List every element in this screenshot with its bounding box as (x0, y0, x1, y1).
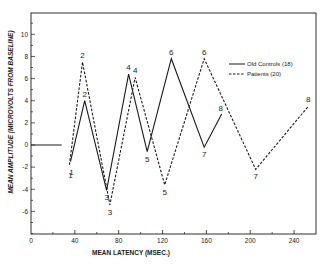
x-tick-label: 120 (157, 237, 168, 244)
y-tick-label: -4 (22, 186, 28, 193)
point-label: 7 (202, 150, 207, 159)
y-axis-ticks: -6-4-20246810 (21, 23, 35, 233)
plot-frame (31, 13, 316, 234)
erp-latency-amplitude-chart: 04080120160200240 -6-4-20246810 12345678… (0, 0, 331, 269)
y-axis-title: MEAN AMPLITUDE (MICROVOLTS FROM BASELINE… (7, 30, 15, 193)
point-label: 1 (68, 171, 73, 180)
point-label: 8 (219, 104, 224, 113)
y-tick-label: 10 (21, 31, 29, 38)
legend: Old Controls (18) Patients (20) (229, 61, 293, 77)
y-tick-label: 8 (24, 53, 28, 60)
point-label: 4 (133, 66, 138, 75)
y-tick-label: -6 (22, 208, 28, 215)
x-tick-label: 80 (115, 237, 123, 244)
x-tick-label: 40 (71, 237, 79, 244)
point-label: 2 (82, 90, 87, 99)
x-tick-label: 160 (201, 237, 212, 244)
y-tick-label: 0 (24, 141, 28, 148)
x-axis-ticks: 04080120160200240 (29, 230, 300, 244)
point-label: 6 (169, 48, 174, 57)
point-label: 3 (108, 208, 113, 217)
x-axis-title: MEAN LATENCY (MSEC.) (92, 249, 170, 257)
point-label: 5 (145, 155, 150, 164)
point-label: 4 (126, 63, 131, 72)
point-label: 2 (80, 51, 85, 60)
point-label: 5 (163, 188, 168, 197)
series-old-controls (71, 59, 222, 191)
series-layer (31, 59, 308, 205)
legend-label-old-controls: Old Controls (18) (247, 61, 293, 67)
y-tick-label: -2 (22, 163, 28, 170)
point-label: 8 (306, 95, 311, 104)
point-label: 7 (253, 172, 258, 181)
legend-label-patients: Patients (20) (247, 71, 281, 77)
point-label: 3 (104, 193, 109, 202)
point-label: 6 (202, 48, 207, 57)
y-tick-label: 6 (24, 75, 28, 82)
x-tick-label: 0 (29, 237, 33, 244)
x-tick-label: 240 (289, 237, 300, 244)
x-tick-label: 200 (245, 237, 256, 244)
y-tick-label: 2 (24, 119, 28, 126)
y-tick-label: 4 (24, 97, 28, 104)
